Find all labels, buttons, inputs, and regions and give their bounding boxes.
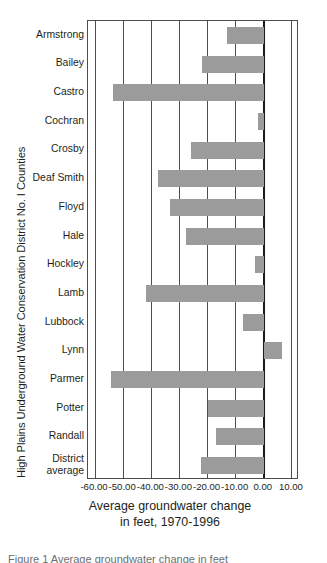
category-label-lynn: Lynn (18, 344, 84, 355)
x-tick-label-10: 10.00 (271, 481, 311, 492)
category-label-bailey: Bailey (18, 57, 84, 68)
category-label-parmer: Parmer (18, 373, 84, 384)
x-axis-title: Average groundwater change in feet, 1970… (40, 498, 300, 530)
figure-caption: Figure 1 Average groundwater change in f… (8, 553, 327, 563)
x-axis-tick-labels: -60.00-50.00-40.00-30.00-20.00-10.000.00… (0, 481, 327, 497)
category-label-lubbock: Lubbock (18, 316, 84, 327)
bar (227, 27, 264, 44)
bar (170, 199, 264, 216)
bar (186, 228, 263, 245)
category-label-cochran: Cochran (18, 115, 84, 126)
category-label-column: ArmstrongBaileyCastroCochranCrosbyDeaf S… (18, 20, 84, 479)
category-label-hockley: Hockley (18, 258, 84, 269)
bar (158, 170, 264, 187)
category-label-randall: Randall (18, 430, 84, 441)
x-axis-title-line1: Average groundwater change (40, 498, 300, 514)
category-label-deaf-smith: Deaf Smith (18, 172, 84, 183)
category-label-armstrong: Armstrong (18, 29, 84, 40)
gridline-10 (291, 21, 292, 478)
bar (191, 142, 264, 159)
category-label-district-average: Districtaverage (18, 453, 84, 475)
bar (111, 371, 264, 388)
category-label-potter: Potter (18, 402, 84, 413)
category-label-lamb: Lamb (18, 287, 84, 298)
bar (208, 400, 264, 417)
category-label-castro: Castro (18, 86, 84, 97)
bar (258, 113, 264, 130)
category-label-line: District (18, 453, 84, 464)
bar (113, 84, 264, 101)
bar (264, 342, 282, 359)
bar (146, 285, 264, 302)
groundwater-change-bar-chart: High Plains Underground Water Conservati… (0, 0, 327, 563)
x-axis-title-line2: in feet, 1970-1996 (40, 514, 300, 530)
category-label-crosby: Crosby (18, 143, 84, 154)
category-label-floyd: Floyd (18, 201, 84, 212)
bar (202, 56, 264, 73)
bar (201, 457, 264, 474)
gridline--60 (95, 21, 96, 478)
plot-area (87, 20, 298, 479)
bar (255, 256, 263, 273)
bar (216, 428, 264, 445)
category-label-line: average (18, 465, 84, 476)
bar (243, 314, 264, 331)
y-axis-title: High Plains Underground Water Conservati… (0, 0, 20, 480)
category-label-hale: Hale (18, 230, 84, 241)
